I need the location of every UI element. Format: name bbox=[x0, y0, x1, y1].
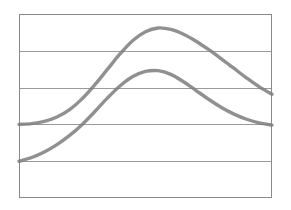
chart-figure bbox=[0, 0, 291, 210]
plot-background bbox=[19, 14, 272, 198]
line-chart-canvas bbox=[0, 0, 291, 210]
